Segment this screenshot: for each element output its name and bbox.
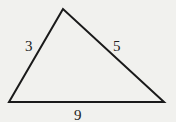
triangle-diagram: 3 5 9: [0, 0, 176, 122]
side-label-base: 9: [74, 107, 82, 122]
side-label-right: 5: [113, 38, 121, 54]
triangle-shape: [9, 9, 164, 102]
side-label-left: 3: [25, 38, 33, 54]
